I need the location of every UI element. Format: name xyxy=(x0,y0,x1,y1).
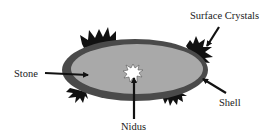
shell-label: Shell xyxy=(219,97,241,108)
shell-arrow xyxy=(203,79,226,93)
stone-label: Stone xyxy=(14,68,38,79)
nidus-label: Nidus xyxy=(121,121,146,132)
stone-structure-diagram: Surface Crystals Stone Shell Nidus xyxy=(0,0,276,136)
surface-crystals-label: Surface Crystals xyxy=(190,10,259,21)
surface-crystals-arrow xyxy=(207,27,219,46)
